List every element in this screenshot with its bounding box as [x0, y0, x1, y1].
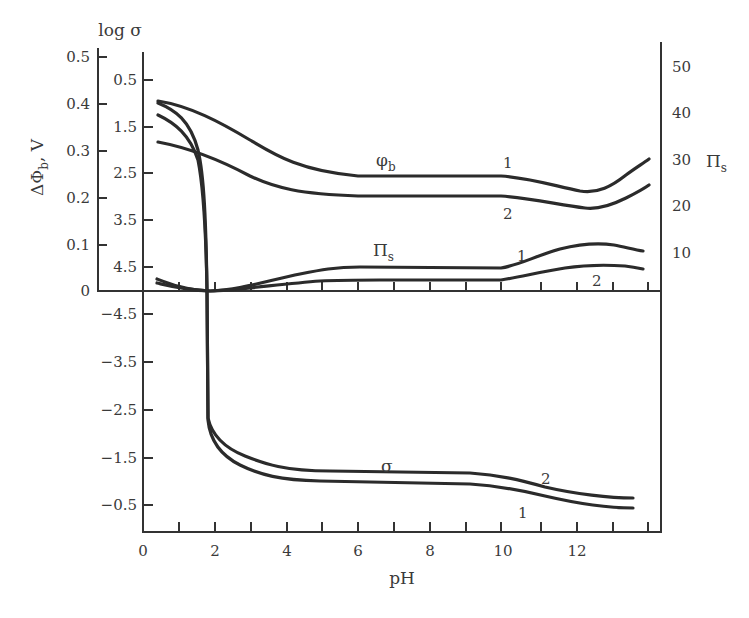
phi-b-curve-2-label: 2: [503, 205, 513, 223]
left-outer-ticks: 0.5 0.4 0.3 0.2 0.1 0: [66, 48, 107, 300]
sigma-annotation: σ: [381, 456, 393, 476]
log-sigma-axis-title: log σ: [98, 20, 142, 40]
x-axis-title: pH: [389, 568, 415, 588]
pi-s-curve-1-label: 1: [517, 247, 527, 265]
log-tick-label: −1.5: [101, 449, 137, 467]
log-tick-label: 0.5: [113, 71, 137, 89]
log-sigma-upper-ticks: 0.5 1.5 2.5 3.5 4.5: [113, 71, 153, 276]
x-tick-label: 4: [282, 542, 292, 560]
log-tick-label: −4.5: [101, 305, 137, 323]
x-tick-label: 0: [138, 542, 148, 560]
phi-b-curve-1: [158, 101, 649, 192]
x-tick-label: 10: [493, 542, 512, 560]
log-tick-label: 2.5: [113, 164, 137, 182]
log-tick-label: 3.5: [113, 211, 137, 229]
log-tick-label: 4.5: [113, 258, 137, 276]
left-tick-label: 0.1: [66, 236, 90, 254]
phi-b-curve-1-label: 1: [503, 154, 513, 172]
right-tick-label: 10: [672, 244, 691, 262]
right-tick-label: 20: [672, 197, 691, 215]
right-tick-label: 30: [672, 151, 691, 169]
right-axis-title: Πs: [706, 151, 727, 175]
log-tick-label: −2.5: [101, 401, 137, 419]
x-tick-label: 2: [210, 542, 220, 560]
chart: 0.5 0.4 0.3 0.2 0.1 0 0.5 1.5 2.5 3.5 4.…: [0, 0, 749, 618]
pi-s-annotation: Πs: [373, 240, 394, 264]
right-tick-label: 40: [672, 104, 691, 122]
left-tick-label: 0.5: [66, 48, 90, 66]
right-tick-label: 50: [672, 58, 691, 76]
phi-b-annotation: φb: [376, 150, 396, 174]
log-tick-label: −3.5: [101, 353, 137, 371]
x-tick-label: 8: [425, 542, 435, 560]
log-sigma-lower-ticks: −4.5 −3.5 −2.5 −1.5 −0.5: [101, 305, 153, 514]
log-tick-label: −0.5: [101, 496, 137, 514]
pi-s-curve-2-label: 2: [592, 272, 602, 290]
right-ticks: 50 40 30 20 10: [672, 58, 691, 262]
x-tick-label: 12: [567, 542, 586, 560]
left-tick-label: 0: [80, 282, 90, 300]
svg-text:ΔΦb, V: ΔΦb, V: [27, 138, 51, 196]
left-axis-title: ΔΦb, V: [27, 138, 51, 196]
pi-s-curve-2: [157, 265, 643, 291]
sigma-curve-1-label: 1: [518, 504, 528, 522]
log-tick-label: 1.5: [113, 118, 137, 136]
sigma-curve-2-label: 2: [541, 470, 551, 488]
x-ticks: 0 2 4 6 8 10 12: [138, 522, 648, 560]
left-tick-label: 0.3: [66, 142, 90, 160]
left-tick-label: 0.4: [66, 95, 90, 113]
left-tick-label: 0.2: [66, 189, 90, 207]
x-tick-label: 6: [353, 542, 363, 560]
